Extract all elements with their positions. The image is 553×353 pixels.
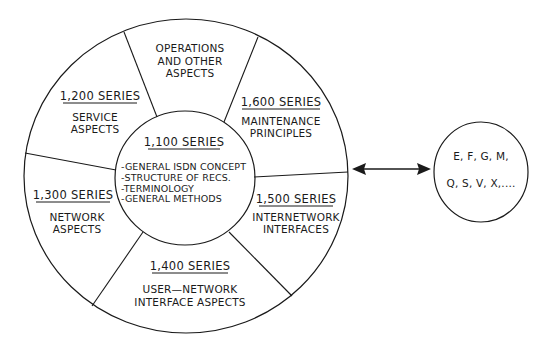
- segment-1500-line-2: INTERFACES: [263, 223, 329, 235]
- external-series-circle: [434, 122, 528, 222]
- segment-operations: OPERATIONS AND OTHER ASPECTS: [156, 42, 225, 79]
- segment-1300-line-1: NETWORK: [49, 211, 105, 223]
- divider-right: [254, 172, 348, 177]
- center-1100: 1,100 SERIES -GENERAL ISDN CONCEPT -STRU…: [121, 135, 246, 204]
- divider-bottom-left: [92, 232, 143, 306]
- segment-1600-line-2: PRINCIPLES: [250, 127, 313, 139]
- center-item-general-methods: -GENERAL METHODS: [121, 193, 222, 204]
- segment-1500-title: 1,500 SERIES: [256, 192, 337, 206]
- segment-1400-line-2: INTERFACE ASPECTS: [134, 296, 245, 308]
- external-series-line-2: Q, S, V, X,....: [446, 177, 515, 189]
- segment-1200-title: 1,200 SERIES: [60, 89, 141, 103]
- segment-1600-line-1: MAINTENANCE: [241, 115, 320, 127]
- segment-1500-line-1: INTERNETWORK: [252, 211, 340, 223]
- segment-operations-line-3: ASPECTS: [166, 67, 215, 79]
- segment-1200-line-2: ASPECTS: [71, 123, 120, 135]
- center-item-structure: -STRUCTURE OF RECS.: [121, 172, 231, 183]
- segment-1300-line-2: ASPECTS: [53, 223, 102, 235]
- segment-1600: 1,600 SERIES MAINTENANCE PRINCIPLES: [241, 95, 322, 139]
- external-series-line-1: E, F, G, M,: [453, 150, 508, 162]
- isdn-series-diagram: OPERATIONS AND OTHER ASPECTS 1,600 SERIE…: [0, 0, 553, 353]
- segment-operations-line-1: OPERATIONS: [156, 42, 225, 54]
- divider-top-left: [124, 32, 157, 117]
- segment-1300-title: 1,300 SERIES: [33, 188, 114, 202]
- center-1100-title: 1,100 SERIES: [144, 135, 225, 149]
- segment-1400-title: 1,400 SERIES: [150, 259, 231, 273]
- divider-bottom-right: [229, 232, 292, 296]
- segment-1300: 1,300 SERIES NETWORK ASPECTS: [33, 188, 114, 235]
- segment-1200: 1,200 SERIES SERVICE ASPECTS: [60, 89, 141, 135]
- segment-1400: 1,400 SERIES USER—NETWORK INTERFACE ASPE…: [134, 259, 245, 308]
- segment-1400-line-1: USER—NETWORK: [143, 283, 239, 295]
- segment-1600-title: 1,600 SERIES: [241, 95, 322, 109]
- double-arrow-icon: [352, 163, 431, 175]
- segment-operations-line-2: AND OTHER: [158, 55, 223, 67]
- segment-1200-line-1: SERVICE: [72, 111, 118, 123]
- segment-1500: 1,500 SERIES INTERNETWORK INTERFACES: [252, 192, 340, 235]
- center-item-general-isdn: -GENERAL ISDN CONCEPT: [121, 161, 246, 172]
- divider-left: [25, 153, 116, 170]
